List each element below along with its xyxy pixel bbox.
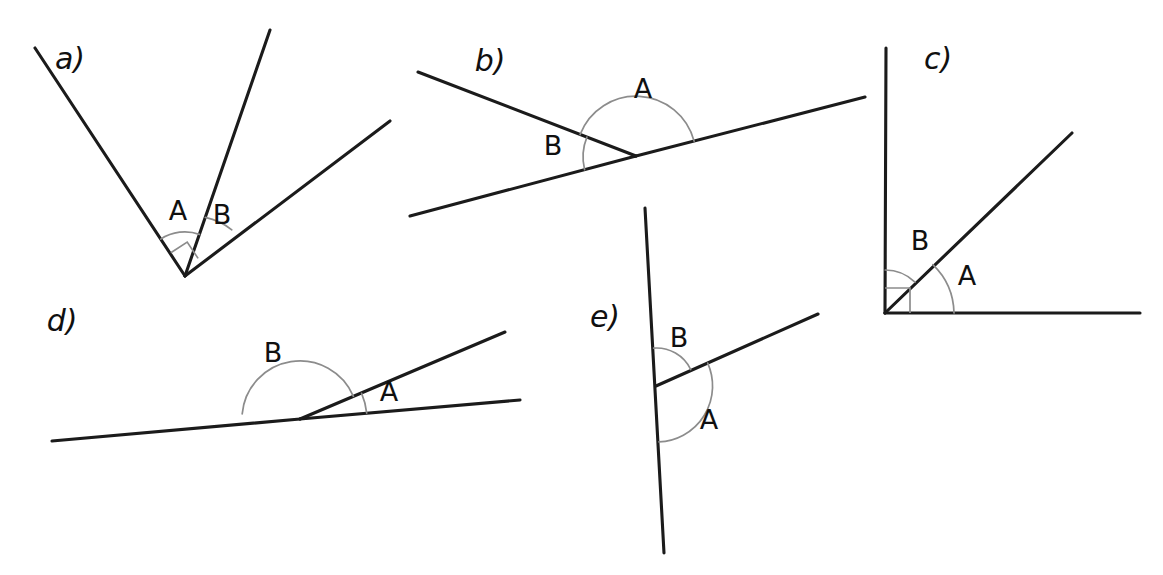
- figure-c-diagonal-ray: [885, 133, 1072, 313]
- figure-d-angle-a-arc: [362, 393, 367, 413]
- figure-c-part-label: c): [924, 41, 952, 76]
- figure-e: B A e): [590, 208, 818, 553]
- figure-b-label-a: A: [634, 73, 653, 104]
- figure-c-angle-b-arc: [885, 270, 915, 282]
- figure-e-label-a: A: [700, 404, 719, 435]
- figure-d-label-b: B: [264, 337, 283, 368]
- figure-a-part-label: a): [55, 41, 85, 76]
- figure-c: B A c): [885, 41, 1140, 314]
- figure-root: A B a) A B b) B A: [0, 0, 1163, 575]
- figure-b: A B b): [410, 43, 865, 217]
- figure-a-angle-a-arc: [161, 232, 200, 239]
- figure-b-label-b: B: [544, 130, 563, 161]
- figure-a-label-b: B: [213, 199, 232, 230]
- figure-d-label-a: A: [380, 376, 399, 407]
- figure-d-line-right: [300, 400, 520, 419]
- figure-e-vertical-line: [645, 208, 664, 553]
- figure-a-label-a: A: [169, 195, 188, 226]
- figure-c-label-b: B: [911, 225, 930, 256]
- figure-e-label-b: B: [670, 322, 689, 353]
- figure-b-line-right: [636, 97, 865, 156]
- figure-e-part-label: e): [590, 299, 620, 334]
- figure-a-middle-ray: [185, 30, 270, 276]
- figure-c-angle-a-arc: [933, 265, 954, 313]
- figure-d: B A d): [47, 303, 520, 442]
- figure-b-line-left: [410, 156, 636, 216]
- figure-d-line-left: [52, 419, 300, 441]
- figure-d-upper-ray: [300, 332, 505, 419]
- figure-b-upper-left-ray: [418, 72, 636, 156]
- angle-diagram-canvas: A B a) A B b) B A: [0, 0, 1163, 575]
- figure-a: A B a): [35, 30, 390, 276]
- figure-c-vertical-ray: [885, 48, 886, 313]
- figure-d-angle-b-arc: [242, 361, 353, 414]
- figure-b-angle-b-arc: [583, 137, 587, 170]
- figure-b-part-label: b): [475, 43, 506, 78]
- figure-c-label-a: A: [958, 260, 977, 291]
- figure-d-part-label: d): [47, 303, 78, 338]
- figure-a-left-ray: [35, 48, 185, 276]
